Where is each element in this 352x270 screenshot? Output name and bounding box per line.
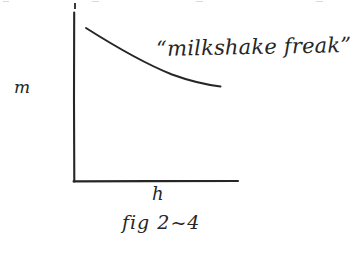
figure-caption: fig 2~4: [122, 213, 200, 232]
x-axis-label: h: [152, 185, 164, 203]
curve-annotation-label: “milkshake freak”: [156, 35, 351, 60]
y-axis-label: m: [14, 79, 31, 96]
scan-artifact-speck: [92, 1, 99, 2]
scan-artifact-speck: [3, 1, 9, 2]
scan-artifact-speck: [316, 1, 323, 2]
scan-artifact-speck: [196, 1, 203, 2]
scan-artifact-speck: [74, 3, 76, 9]
